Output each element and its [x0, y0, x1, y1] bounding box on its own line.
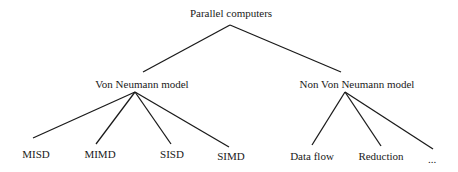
edge-von-neumann-sisd — [135, 92, 171, 144]
edge-non-von-neumann-more — [345, 92, 433, 149]
diagram-svg: Parallel computers Von Neumann model Non… — [0, 0, 458, 172]
edge-von-neumann-simd — [135, 92, 229, 147]
node-ellipsis: ... — [428, 153, 437, 165]
edge-non-von-neumann-data-flow — [312, 92, 345, 145]
node-simd: SIMD — [217, 150, 245, 162]
node-parallel-computers: Parallel computers — [190, 7, 272, 19]
node-mimd: MIMD — [84, 148, 115, 160]
node-data-flow: Data flow — [290, 150, 334, 162]
node-misd: MISD — [22, 148, 50, 160]
node-reduction: Reduction — [358, 150, 404, 162]
edge-root-von-neumann — [143, 25, 230, 72]
node-non-von-neumann-model: Non Von Neumann model — [300, 78, 415, 90]
edge-von-neumann-misd — [33, 92, 135, 138]
edge-root-non-von-neumann — [230, 25, 341, 72]
edge-von-neumann-mimd — [96, 92, 135, 144]
tree-diagram: Parallel computers Von Neumann model Non… — [0, 0, 458, 172]
edge-non-von-neumann-reduction — [345, 92, 381, 146]
node-sisd: SISD — [160, 148, 184, 160]
node-von-neumann-model: Von Neumann model — [95, 78, 188, 90]
